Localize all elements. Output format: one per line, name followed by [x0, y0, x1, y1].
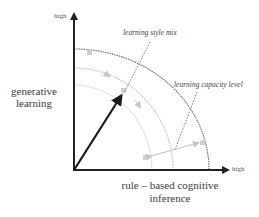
capacity-marker-inner	[143, 155, 148, 160]
x-axis-title: rule – based cognitive inference	[100, 179, 240, 205]
x-axis-title-line-1: rule – based cognitive	[100, 179, 240, 192]
middle-arc-arrow-right	[135, 100, 140, 107]
y-axis-high-label: high	[54, 12, 66, 20]
y-axis-title-line-1: generative	[2, 85, 66, 97]
main-vector-arrow	[74, 96, 121, 170]
y-axis-title-line-2: learning	[2, 97, 66, 109]
learning-capacity-leader	[175, 92, 197, 150]
capacity-double-arrow	[151, 143, 198, 156]
middle-arc	[74, 68, 173, 170]
capacity-marker-outer	[200, 140, 205, 145]
outer-arc-marker	[87, 50, 92, 55]
learning-style-mix-label: learning style mix	[123, 28, 177, 37]
x-axis-title-line-2: inference	[100, 192, 240, 205]
x-axis-high-label: high	[232, 165, 244, 173]
outer-arc	[74, 49, 209, 170]
learning-capacity-level-label: learning capacity level	[174, 80, 243, 89]
middle-arc-arrow-left	[103, 72, 109, 76]
y-axis-title: generative learning	[2, 85, 66, 109]
inner-arc	[74, 85, 152, 170]
